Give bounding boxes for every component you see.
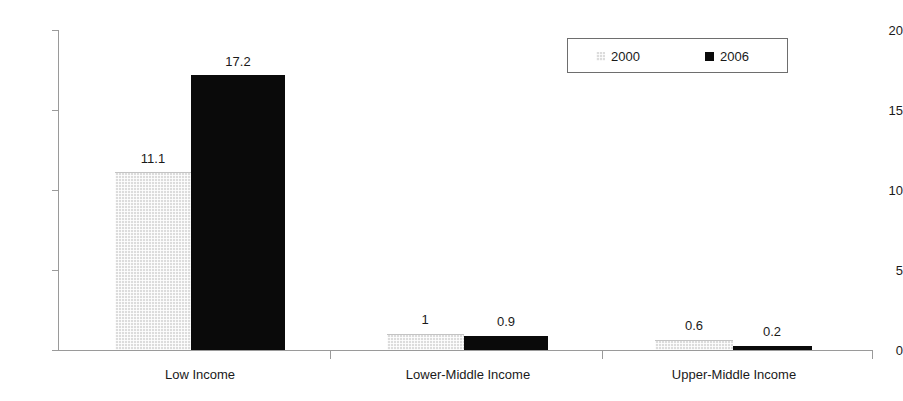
x-axis-tick-separator-2: [602, 351, 603, 359]
y-axis-label-5: 5: [859, 264, 903, 277]
y-axis-tick-5: [52, 270, 59, 271]
legend-item-2006[interactable]: 2006: [705, 50, 749, 63]
y-axis-tick-20: [52, 30, 59, 31]
bar-2006-lower-middle-income[interactable]: [464, 336, 548, 350]
bar-2000-upper-middle-income[interactable]: [655, 340, 733, 350]
bar-2006-low-income[interactable]: [191, 75, 285, 350]
bar-value-2006-lower-middle-income: 0.9: [466, 315, 546, 328]
bar-value-2000-upper-middle-income: 0.6: [654, 319, 734, 332]
y-axis-label-10: 10: [859, 184, 903, 197]
y-axis-tick-15: [52, 110, 59, 111]
x-axis-tick-separator-1: [330, 351, 331, 359]
legend-label-2006: 2006: [720, 50, 749, 63]
legend-item-2000[interactable]: 2000: [596, 50, 640, 63]
bar-2006-upper-middle-income[interactable]: [733, 346, 812, 350]
y-axis-tick-0: [52, 350, 59, 351]
x-axis-line: [58, 350, 873, 351]
legend-swatch-2006-icon: [705, 52, 714, 61]
y-axis-label-0: 0: [859, 344, 903, 357]
bar-value-2000-lower-middle-income: 1: [385, 313, 465, 326]
bar-value-2000-low-income: 11.1: [113, 152, 193, 165]
legend-swatch-2000-icon: [596, 52, 605, 61]
legend-label-2000: 2000: [611, 50, 640, 63]
x-axis-category-label-low-income: Low Income: [120, 368, 280, 381]
x-axis-category-label-upper-middle-income: Upper-Middle Income: [652, 368, 816, 381]
legend: 2000 2006: [567, 38, 788, 73]
bar-2000-lower-middle-income[interactable]: [387, 334, 464, 350]
bar-value-2006-low-income: 17.2: [198, 55, 278, 68]
y-axis-tick-10: [52, 190, 59, 191]
bar-chart: 20 15 10 5 0 11.1 17.2 1 0.9 0.6 0.2 Low…: [0, 0, 903, 401]
x-axis-category-label-lower-middle-income: Lower-Middle Income: [386, 368, 550, 381]
x-axis-tick-end: [872, 351, 873, 359]
bar-2000-low-income[interactable]: [115, 172, 191, 350]
bar-value-2006-upper-middle-income: 0.2: [732, 325, 812, 338]
y-axis-label-20: 20: [859, 24, 903, 37]
y-axis-label-15: 15: [859, 104, 903, 117]
